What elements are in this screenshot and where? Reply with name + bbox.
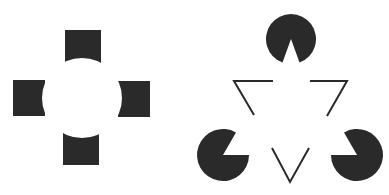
square-right: [118, 81, 150, 117]
pacman-bottom-left: [197, 129, 249, 181]
triangle-illusion: [197, 14, 383, 182]
line-corner-right: [310, 81, 347, 116]
pacman-top: [266, 14, 316, 63]
square-top: [65, 30, 101, 63]
square-bottom: [63, 132, 99, 165]
illusion-canvas: [0, 0, 389, 195]
line-corner-bottom: [272, 148, 309, 182]
pacman-bottom-right: [331, 129, 383, 181]
square-left: [13, 80, 45, 116]
squares-illusion: [13, 30, 150, 165]
line-corner-left: [234, 81, 273, 115]
